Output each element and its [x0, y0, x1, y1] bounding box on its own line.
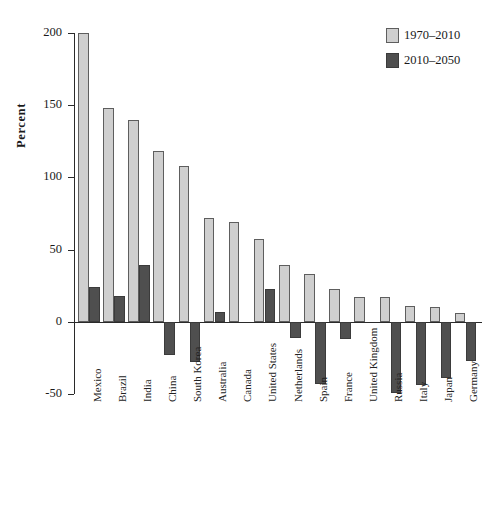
- chart-legend: 1970–2010 2010–2050: [386, 27, 460, 77]
- bar-1970-2010: [405, 306, 416, 322]
- bar-1970-2010: [279, 265, 290, 321]
- bar-2010-2050: [416, 322, 427, 386]
- bar-1970-2010: [204, 218, 215, 322]
- legend-label-1970-2010: 1970–2010: [404, 28, 460, 43]
- legend-item: 2010–2050: [386, 52, 460, 68]
- x-axis-label-russia: Russia: [392, 373, 404, 402]
- bar-1970-2010: [430, 307, 441, 321]
- bar-2010-2050: [315, 322, 326, 384]
- x-axis-label-netherlands: Netherlands: [292, 349, 304, 402]
- bar-1970-2010: [354, 297, 365, 322]
- y-axis-line: [74, 33, 75, 394]
- bar-1970-2010: [304, 274, 315, 322]
- x-axis-label-united-states: United States: [266, 343, 278, 402]
- x-axis-label-united-kingdom: United Kingdom: [367, 328, 379, 402]
- x-axis-label-australia: Australia: [216, 362, 228, 402]
- bar-1970-2010: [78, 33, 89, 322]
- x-axis-label-france: France: [342, 372, 354, 402]
- bar-1970-2010: [153, 151, 164, 321]
- y-tick-label: 50: [20, 242, 62, 257]
- y-tick-label: 150: [20, 97, 62, 112]
- y-tick-mark: [68, 394, 74, 395]
- bar-chart: Percent 200150100500-50 MexicoBrazilIndi…: [0, 0, 497, 506]
- y-tick-label: -50: [20, 386, 62, 401]
- bar-2010-2050: [290, 322, 301, 338]
- bar-2010-2050: [215, 312, 226, 322]
- bar-1970-2010: [254, 239, 265, 321]
- bar-2010-2050: [164, 322, 175, 355]
- x-axis-label-china: China: [166, 376, 178, 402]
- x-axis-label-japan: Japan: [442, 377, 454, 402]
- x-axis-label-india: India: [141, 379, 153, 402]
- bar-1970-2010: [455, 313, 466, 322]
- x-axis-label-south-korea: South Korea: [191, 347, 203, 402]
- x-axis-label-italy: Italy: [417, 382, 429, 402]
- bar-1970-2010: [128, 120, 139, 322]
- x-axis-label-mexico: Mexico: [91, 368, 103, 402]
- bar-2010-2050: [89, 287, 100, 322]
- y-tick-label: 200: [20, 25, 62, 40]
- bar-2010-2050: [466, 322, 477, 361]
- bar-2010-2050: [139, 265, 150, 321]
- x-axis-label-germany: Germany: [467, 361, 479, 402]
- y-tick-label: 100: [20, 169, 62, 184]
- bar-2010-2050: [340, 322, 351, 339]
- y-tick-label: 0: [20, 314, 62, 329]
- bar-1970-2010: [229, 222, 240, 322]
- legend-label-2010-2050: 2010–2050: [404, 53, 460, 68]
- x-axis-label-canada: Canada: [241, 369, 253, 402]
- bar-1970-2010: [329, 289, 340, 322]
- bar-2010-2050: [441, 322, 452, 378]
- bar-1970-2010: [380, 297, 391, 322]
- bar-2010-2050: [114, 296, 125, 322]
- x-axis-label-brazil: Brazil: [116, 375, 128, 402]
- bar-1970-2010: [179, 166, 190, 322]
- bar-1970-2010: [103, 108, 114, 322]
- legend-swatch-icon-2010-2050: [386, 53, 399, 68]
- bar-2010-2050: [265, 289, 276, 322]
- x-axis-label-spain: Spain: [317, 377, 329, 402]
- legend-swatch-icon-1970-2010: [386, 28, 399, 43]
- legend-item: 1970–2010: [386, 27, 460, 43]
